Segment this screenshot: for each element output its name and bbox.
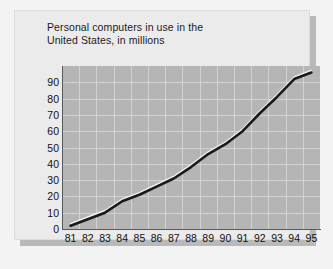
y-axis-tick-label: 0 (33, 224, 59, 234)
y-axis-tick-label: 20 (33, 191, 59, 201)
plot-area (62, 66, 320, 229)
y-axis-tick-label: 10 (33, 208, 59, 218)
y-axis-tick-label: 60 (33, 126, 59, 136)
y-axis-tick-label: 50 (33, 143, 59, 153)
chart-card: Personal computers in use in the United … (14, 10, 310, 240)
line-highlight-stroke (71, 70, 312, 223)
y-axis-tick-labels: 0102030405060708090 (33, 59, 59, 237)
y-axis-tick-label: 90 (33, 77, 59, 87)
y-axis-tick-label: 70 (33, 110, 59, 120)
chart-screenshot: Personal computers in use in the United … (0, 0, 333, 269)
y-axis-tick-label: 40 (33, 159, 59, 169)
y-axis-tick-label: 30 (33, 175, 59, 185)
chart-title: Personal computers in use in the United … (47, 21, 287, 47)
y-axis-tick-label: 80 (33, 94, 59, 104)
x-axis-tick-labels: 818283848586878889909192939495 (62, 232, 320, 248)
x-axis-tick-label: 95 (301, 232, 321, 244)
data-line-series (62, 66, 320, 229)
